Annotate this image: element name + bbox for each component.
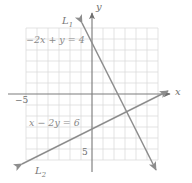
equation-label-2: x − 2y = 6	[29, 117, 80, 128]
coordinate-plane-svg	[0, 0, 192, 183]
x-axis-label: x	[175, 86, 181, 97]
y-axis-label: y	[96, 1, 102, 12]
line-label-L2: L2	[35, 165, 46, 179]
y-tick-negative-5: 5	[82, 147, 88, 157]
graph-figure: y x −5 5 L1 L2 −2x + y = 4 x − 2y = 6	[0, 0, 192, 183]
line-label-L2-subscript: 2	[42, 171, 46, 179]
x-tick-negative-5: −5	[15, 95, 28, 105]
line-L1	[82, 23, 156, 170]
line-label-L1-text: L	[62, 15, 69, 26]
line-label-L1-subscript: 1	[69, 21, 73, 29]
line-label-L1: L1	[62, 15, 73, 29]
line-label-L2-text: L	[35, 165, 42, 176]
equation-label-1: −2x + y = 4	[26, 34, 85, 45]
